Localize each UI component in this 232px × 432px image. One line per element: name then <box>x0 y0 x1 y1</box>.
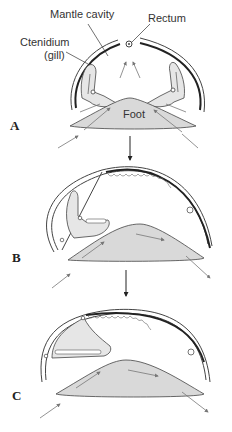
panel-label-c: C <box>12 388 21 403</box>
gill-b <box>67 191 110 238</box>
panel-c: C <box>12 309 210 418</box>
flow-arrow <box>58 136 78 148</box>
rectum-lumen <box>128 43 130 45</box>
rectum-b <box>187 207 193 213</box>
flow-arrow <box>40 404 60 418</box>
mollusc-diagram: Foot Mantle cavity Rectum Ctenidium (gil… <box>0 0 232 432</box>
flow-arrow <box>80 104 100 112</box>
flow-arrow <box>182 134 198 148</box>
panel-a: Foot Mantle cavity Rectum Ctenidium (gil… <box>10 8 205 148</box>
flow-arrow <box>166 104 186 112</box>
ctenidium-label: Ctenidium <box>20 36 70 48</box>
gill-b-joint <box>78 216 82 220</box>
foot-c <box>56 360 204 397</box>
gill-b-slot <box>86 219 106 223</box>
gill-label: (gill) <box>44 49 65 61</box>
mantle-cavity-leader <box>88 24 108 56</box>
gill-c-joint <box>81 316 85 320</box>
foot-label: Foot <box>123 108 145 120</box>
panel-label-b: B <box>12 250 21 265</box>
rectum-label: Rectum <box>148 12 186 24</box>
gill-right-joint <box>171 88 175 92</box>
panel-label-a: A <box>10 118 20 133</box>
shell-b-ridges <box>108 174 171 188</box>
gill-b-joint <box>60 238 64 242</box>
flow-arrow <box>133 62 140 78</box>
gill-c-slot <box>55 350 101 354</box>
gill-left <box>81 65 118 107</box>
shell-c-ridges <box>88 316 151 330</box>
gill-left-joint <box>91 90 95 94</box>
gill-right <box>146 62 185 106</box>
flow-arrow <box>52 274 70 288</box>
rectum-leader <box>132 24 150 42</box>
rectum-c <box>188 349 194 355</box>
flow-arrow <box>120 62 126 78</box>
panel-b: B <box>12 167 212 288</box>
mantle-cavity-label: Mantle cavity <box>50 8 115 20</box>
ctenidium-leader <box>66 52 88 64</box>
gill-c-joint <box>44 354 48 358</box>
